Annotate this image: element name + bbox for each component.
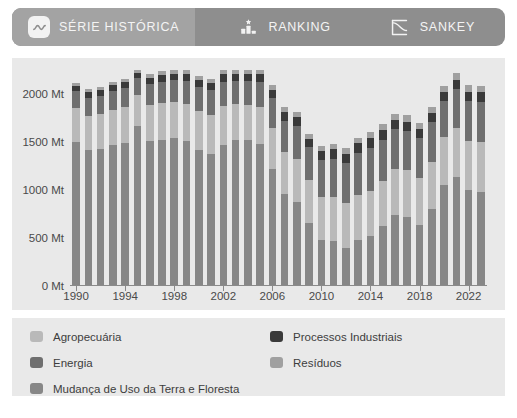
bar-segment-energia — [354, 153, 362, 195]
x-axis-tick-label: 1998 — [161, 290, 187, 302]
bar-2007[interactable] — [281, 70, 289, 286]
bar-segment-mudança — [207, 154, 215, 286]
bar-2017[interactable] — [403, 70, 411, 286]
bar-segment-agropecuária — [391, 169, 399, 215]
tab-sankey[interactable]: SANKEY — [373, 8, 491, 46]
bar-segment-agropecuária — [440, 137, 448, 185]
bar-segment-processos — [183, 74, 191, 81]
legend-item[interactable]: Energia — [30, 352, 239, 373]
bar-2012[interactable] — [342, 70, 350, 286]
bar-2011[interactable] — [330, 70, 338, 286]
bar-1995[interactable] — [134, 70, 142, 286]
bar-2010[interactable] — [318, 70, 326, 286]
legend-item[interactable]: Agropecuária — [30, 326, 239, 347]
bar-2001[interactable] — [207, 70, 215, 286]
bar-segment-processos — [232, 74, 240, 81]
bar-segment-energia — [318, 160, 326, 196]
bar-2019[interactable] — [428, 70, 436, 286]
legend-swatch-icon — [30, 383, 43, 394]
bar-segment-mudança — [146, 141, 154, 286]
bar-segment-energia — [85, 98, 93, 116]
x-axis-labels: 199019941998200220062010201420182022 — [70, 290, 487, 308]
bar-2018[interactable] — [416, 70, 424, 286]
bar-segment-mudança — [183, 141, 191, 286]
bar-segment-energia — [440, 101, 448, 137]
bar-segment-mudança — [416, 225, 424, 286]
bar-2003[interactable] — [232, 70, 240, 286]
bar-segment-processos — [379, 130, 387, 139]
y-axis-labels: 0 Mt500 Mt1000 Mt1500 Mt2000 Mt — [12, 70, 64, 286]
bar-segment-processos — [354, 143, 362, 153]
bar-segment-energia — [72, 91, 80, 108]
bar-2006[interactable] — [269, 70, 277, 286]
bar-2004[interactable] — [244, 70, 252, 286]
legend-swatch-icon — [270, 331, 283, 342]
bar-segment-agropecuária — [318, 197, 326, 240]
legend-swatch-icon — [30, 331, 43, 342]
line-chart-icon — [28, 16, 50, 38]
bar-1993[interactable] — [109, 70, 117, 286]
bar-1997[interactable] — [158, 70, 166, 286]
bar-segment-processos — [244, 74, 252, 81]
podium-star-icon — [237, 16, 259, 38]
bar-segment-energia — [121, 88, 129, 107]
bar-segment-processos — [416, 129, 424, 138]
bar-2002[interactable] — [220, 70, 228, 286]
bar-2020[interactable] — [440, 70, 448, 286]
bar-1999[interactable] — [183, 70, 191, 286]
bar-1990[interactable] — [72, 70, 80, 286]
bar-1991[interactable] — [85, 70, 93, 286]
bar-2016[interactable] — [391, 70, 399, 286]
legend-item[interactable]: Processos Industriais — [270, 326, 402, 347]
bar-segment-energia — [293, 126, 301, 159]
x-axis-tick-label: 2006 — [260, 290, 286, 302]
bar-1998[interactable] — [170, 70, 178, 286]
bar-segment-agropecuária — [477, 142, 485, 191]
bar-segment-mudança — [318, 240, 326, 286]
bar-segment-agropecuária — [244, 105, 252, 140]
y-axis-tick-label: 1000 Mt — [22, 184, 64, 196]
bar-2005[interactable] — [256, 70, 264, 286]
bar-1996[interactable] — [146, 70, 154, 286]
bar-segment-mudança — [256, 144, 264, 286]
legend-item[interactable]: Resíduos — [270, 352, 402, 373]
bar-segment-mudança — [354, 240, 362, 286]
bar-segment-mudança — [342, 248, 350, 286]
bar-segment-mudança — [121, 143, 129, 286]
bar-segment-mudança — [465, 190, 473, 286]
bar-segment-agropecuária — [293, 159, 301, 201]
bar-segment-mudança — [305, 223, 313, 286]
bar-segment-mudança — [220, 145, 228, 286]
legend-swatch-icon — [270, 357, 283, 368]
bar-segment-agropecuária — [305, 180, 313, 223]
bar-2009[interactable] — [305, 70, 313, 286]
legend-label: Processos Industriais — [293, 331, 402, 343]
bar-2023[interactable] — [477, 70, 485, 286]
bar-2021[interactable] — [453, 70, 461, 286]
bar-segment-agropecuária — [85, 116, 93, 150]
bar-segment-processos — [367, 138, 375, 148]
bar-segment-resíduos — [440, 86, 448, 93]
stacked-bars — [70, 70, 487, 286]
x-axis-tick-label: 2014 — [358, 290, 384, 302]
bar-2022[interactable] — [465, 70, 473, 286]
bar-2008[interactable] — [293, 70, 301, 286]
x-axis-tick-label: 1994 — [112, 290, 138, 302]
tab-ranking[interactable]: RANKING — [221, 8, 346, 46]
legend-label: Energia — [53, 357, 93, 369]
tab-serie-historica[interactable]: SÉRIE HISTÓRICA — [12, 8, 195, 46]
bar-segment-mudança — [269, 169, 277, 286]
bar-segment-agropecuária — [354, 195, 362, 240]
legend-item[interactable]: Mudança de Uso da Terra e Floresta — [30, 378, 239, 399]
bar-2000[interactable] — [195, 70, 203, 286]
bar-segment-agropecuária — [428, 162, 436, 210]
x-axis-tick-label: 2018 — [407, 290, 433, 302]
bar-1992[interactable] — [97, 70, 105, 286]
tabbar-end-pad — [491, 8, 505, 46]
bar-2015[interactable] — [379, 70, 387, 286]
bar-segment-agropecuária — [281, 152, 289, 194]
bar-2013[interactable] — [354, 70, 362, 286]
bar-1994[interactable] — [121, 70, 129, 286]
bar-segment-agropecuária — [121, 107, 129, 143]
bar-2014[interactable] — [367, 70, 375, 286]
